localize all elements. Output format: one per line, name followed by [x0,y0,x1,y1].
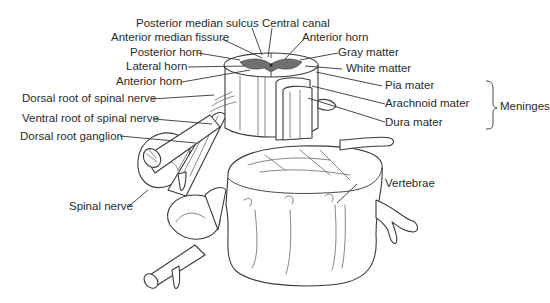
label-anterior-horn-right: Anterior horn [302,31,368,44]
label-gray-matter: Gray matter [338,46,399,59]
label-dorsal-root: Dorsal root of spinal nerve [22,92,156,105]
label-arachnoid-mater: Arachnoid mater [385,97,469,110]
label-spinal-nerve: Spinal nerve [69,200,133,213]
arachnoid-mater-layer [283,86,312,140]
label-vertebrae: Vertebrae [385,177,435,190]
central-canal-dot [270,64,273,67]
label-posterior-median-sulcus: Posterior median sulcus [136,17,259,30]
label-posterior-horn: Posterior horn [130,46,202,59]
label-central-canal: Central canal [262,17,330,30]
vertebra-body [226,146,382,286]
label-anterior-median-fissure: Anterior median fissure [111,31,229,44]
label-white-matter: White matter [346,62,411,75]
label-lateral-horn: Lateral horn [126,60,187,73]
label-dura-mater: Dura mater [385,116,443,129]
label-dorsal-root-ganglion: Dorsal root ganglion [20,130,123,143]
label-anterior-horn-left: Anterior horn [116,75,182,88]
label-ventral-root: Ventral root of spinal nerve [22,112,159,125]
label-pia-mater: Pia mater [385,79,434,92]
label-meninges: Meninges [500,100,550,113]
meninges-brace [486,81,497,129]
